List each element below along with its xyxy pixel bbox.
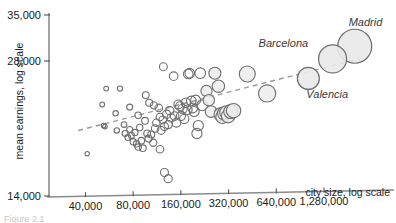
data-point (259, 85, 276, 102)
city-bubble-valencia (297, 67, 319, 89)
data-point (113, 111, 118, 116)
y-tick-label-14000: 14,000 (0, 190, 41, 202)
annotated-city-bubbles (297, 29, 371, 89)
y-tick-label-35000: 35,000 (0, 9, 41, 21)
data-point (212, 80, 224, 92)
data-point (137, 124, 143, 130)
city-label-madrid: Madrid (349, 16, 383, 28)
data-point (103, 124, 108, 129)
data-point (127, 104, 133, 110)
data-point (117, 86, 122, 91)
data-point (159, 63, 167, 71)
data-point (104, 86, 109, 91)
data-point (164, 175, 172, 183)
city-bubble-barcelona (319, 45, 347, 73)
data-point (114, 128, 119, 133)
data-point (193, 120, 203, 130)
data-point (239, 66, 255, 82)
data-point (100, 102, 105, 107)
data-point (209, 67, 221, 79)
y-axis-title: mean earnings, log scale (13, 41, 25, 161)
city-label-barcelona: Barcelona (259, 37, 309, 49)
data-point (195, 68, 206, 79)
data-point (150, 139, 157, 146)
data-point (138, 137, 145, 144)
data-point (140, 145, 147, 152)
data-point (226, 103, 240, 117)
data-point (85, 151, 89, 155)
data-point (156, 145, 164, 153)
figure-scatter-city-size-earnings: 35,000 28,000 14,000 40,00080,000160,000… (0, 0, 396, 223)
data-point (142, 92, 149, 99)
figure-caption: Figure 2.1 (4, 214, 45, 223)
data-point (169, 72, 178, 81)
data-point (142, 117, 149, 124)
city-label-valencia: Valencia (306, 88, 348, 100)
x-axis-title: city size, log scale (305, 186, 390, 198)
data-point (203, 94, 214, 105)
data-point (121, 122, 127, 128)
data-points (85, 63, 276, 183)
